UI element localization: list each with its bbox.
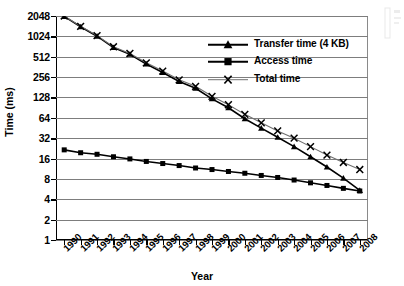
data-point [242, 171, 247, 176]
square-marker-icon [206, 53, 250, 70]
x-marker-icon [206, 71, 250, 88]
y-tick-mark [51, 240, 56, 241]
legend-label-transfer-time: Transfer time (4 KB) [254, 38, 349, 49]
data-point [274, 128, 281, 135]
legend-label-access-time: Access time [254, 55, 312, 66]
series-access-time [62, 147, 363, 193]
legend-item-total-time: Total time [206, 71, 364, 88]
y-tick-label: 2048 [0, 11, 50, 22]
legend-item-access-time: Access time [206, 53, 364, 70]
data-point [78, 150, 83, 155]
y-tick-label: 4 [0, 194, 50, 205]
y-tick-label: 8 [0, 174, 50, 185]
data-point [144, 159, 149, 164]
y-tick-label: 1024 [0, 31, 50, 42]
legend-item-transfer-time: Transfer time (4 KB) [206, 36, 364, 53]
triangle-marker-icon [206, 36, 250, 53]
y-tick-label: 16 [0, 154, 50, 165]
x-axis-title: Year [0, 270, 404, 282]
data-point [193, 165, 198, 170]
data-point [127, 156, 132, 161]
data-point [62, 147, 67, 152]
y-tick-label: 1 [0, 235, 50, 246]
data-point [324, 183, 329, 188]
data-point [291, 135, 298, 142]
data-point [160, 161, 165, 166]
y-tick-label: 512 [0, 52, 50, 63]
data-point [274, 134, 280, 140]
data-point [292, 178, 297, 183]
data-point [177, 163, 182, 168]
data-point [275, 175, 280, 180]
data-point [226, 169, 231, 174]
page-edge-artifact [384, 6, 402, 40]
data-point [341, 186, 346, 191]
data-point [291, 144, 297, 150]
data-point [324, 152, 331, 159]
data-point [340, 159, 347, 166]
data-point [95, 152, 100, 157]
data-point [356, 166, 363, 173]
data-point [111, 154, 116, 159]
chart-figure: 204810245122561286432168421 Time (ms) 19… [0, 0, 404, 286]
y-axis-title: Time (ms) [3, 72, 15, 152]
data-point [259, 173, 264, 178]
data-point [210, 167, 215, 172]
data-point [307, 143, 314, 150]
chart-legend: Transfer time (4 KB) Access time Total t… [206, 36, 364, 88]
y-tick-label: 2 [0, 215, 50, 226]
data-point [308, 180, 313, 185]
legend-label-total-time: Total time [254, 73, 300, 84]
data-point [357, 189, 362, 194]
